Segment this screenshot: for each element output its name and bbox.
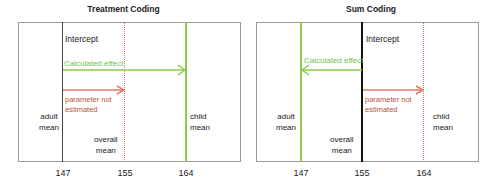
child-mean-line2: mean xyxy=(433,123,453,134)
parameter-not-estimated-arrow-icon xyxy=(363,85,425,95)
overall-mean-line1: overall xyxy=(94,135,118,146)
overall-mean-line2: mean xyxy=(94,146,118,157)
child-mean-line1: child xyxy=(190,112,210,123)
adult-mean-line1: adult xyxy=(276,112,296,123)
adult-mean-label: adult mean xyxy=(276,112,296,133)
parameter-not-estimated-line2: estimated xyxy=(65,105,112,115)
parameter-not-estimated-label: parameter not estimated xyxy=(65,95,112,115)
parameter-not-estimated-line1: parameter not xyxy=(65,95,112,105)
adult-mean-line2: mean xyxy=(39,123,59,134)
adult-mean-line1: adult xyxy=(39,112,59,123)
overall-mean-label: overall mean xyxy=(94,135,118,156)
intercept-label: Intercept xyxy=(366,34,399,45)
tick-147: 147 xyxy=(55,168,70,178)
panel-treatment-coding: Treatment Coding Intercept Calculated ef… xyxy=(0,0,247,188)
tick-147: 147 xyxy=(293,168,308,178)
panel-sum-coding: Sum Coding Intercept Calculated effect p… xyxy=(247,0,495,188)
panel-title: Treatment Coding xyxy=(0,4,247,14)
overall-mean-line1: overall xyxy=(330,135,354,146)
calculated-effect-arrow-icon xyxy=(301,64,363,76)
parameter-not-estimated-line2: estimated xyxy=(365,105,412,115)
overall-mean-line2: mean xyxy=(330,146,354,157)
calculated-effect-arrow-icon xyxy=(63,64,187,76)
adult-mean-line xyxy=(300,22,302,162)
tick-155: 155 xyxy=(117,168,132,178)
panel-title: Sum Coding xyxy=(247,4,495,14)
tick-155: 155 xyxy=(354,168,369,178)
parameter-not-estimated-label: parameter not estimated xyxy=(365,95,412,115)
parameter-not-estimated-line1: parameter not xyxy=(365,95,412,105)
child-mean-line2: mean xyxy=(190,123,210,134)
overall-mean-label: overall mean xyxy=(330,135,354,156)
tick-164: 164 xyxy=(178,168,193,178)
adult-mean-label: adult mean xyxy=(39,112,59,133)
parameter-not-estimated-arrow-icon xyxy=(63,85,126,95)
child-mean-label: child mean xyxy=(433,112,453,133)
child-mean-label: child mean xyxy=(190,112,210,133)
intercept-label: Intercept xyxy=(65,34,98,45)
child-mean-line1: child xyxy=(433,112,453,123)
adult-mean-line2: mean xyxy=(276,123,296,134)
tick-164: 164 xyxy=(416,168,431,178)
plot-frame xyxy=(18,22,241,162)
child-mean-line xyxy=(185,22,187,162)
